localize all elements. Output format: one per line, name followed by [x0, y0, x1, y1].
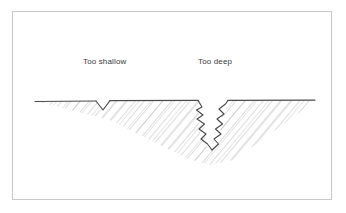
label-too-shallow: Too shallow	[83, 57, 126, 67]
excavation-diagram	[0, 0, 346, 213]
hatched-ground-region	[20, 95, 330, 175]
ground-line-left	[35, 101, 96, 102]
label-too-deep: Too deep	[198, 57, 232, 67]
figure-root: Too shallow Too deep	[0, 0, 346, 213]
